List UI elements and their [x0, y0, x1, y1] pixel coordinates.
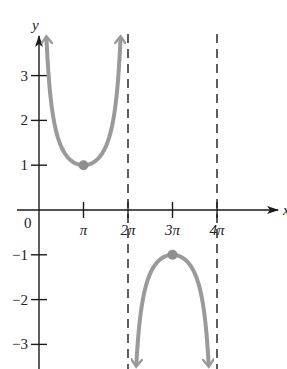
y-tick-label: −3 [12, 336, 28, 352]
y-tick-label: −2 [12, 292, 28, 308]
curve-branch [136, 255, 208, 365]
y-tick-label: 2 [21, 112, 29, 128]
x-axis-label: x [282, 202, 287, 218]
extreme-point [168, 250, 178, 260]
x-tick-label: π [80, 222, 88, 238]
x-tick-label: 2π [120, 222, 136, 238]
y-tick-label: −1 [12, 247, 28, 263]
x-tick-label: 3π [164, 222, 181, 238]
origin-label: 0 [24, 215, 32, 231]
x-ticks: π2π3π4π [80, 202, 225, 238]
csc-graph: y x 0 π2π3π4π 321−1−2−3 [0, 0, 287, 369]
x-tick-label: 4π [209, 222, 225, 238]
curve-branch [46, 38, 120, 165]
extreme-point [79, 160, 89, 170]
y-tick-label: 3 [21, 68, 29, 84]
y-axis-label: y [30, 17, 39, 33]
y-tick-label: 1 [21, 157, 29, 173]
